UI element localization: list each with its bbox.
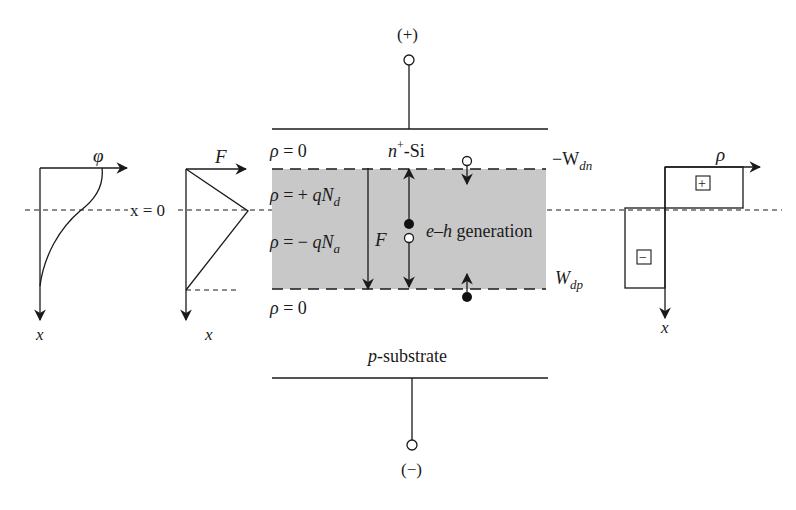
f-label: F [214, 146, 227, 167]
minus-sign: − [639, 250, 647, 265]
charge-density-plot: + − ρ x [625, 144, 760, 337]
eh-generation-label: e–h generation [426, 221, 532, 241]
phi-curve [40, 168, 102, 286]
phi-label: φ [93, 145, 104, 166]
f-x-label: x [204, 325, 213, 344]
plus-sign: + [698, 176, 706, 191]
field-arrow-label: F [374, 229, 387, 250]
negative-terminal-label: (−) [401, 460, 422, 479]
rho-axis-label: ρ [715, 144, 725, 165]
rho-x-label: x [660, 318, 669, 337]
n-plus-si-label: n+-Si [388, 138, 425, 161]
negative-terminal [407, 440, 417, 450]
minority-hole-top [463, 157, 472, 166]
positive-terminal-label: (+) [397, 25, 418, 44]
rho-zero-bottom-label: ρ = 0 [269, 298, 307, 318]
generated-hole-dot [405, 234, 414, 243]
field-plot: F x [186, 146, 248, 344]
w-dn-label: −Wdn [552, 149, 592, 173]
positive-terminal [404, 55, 414, 65]
origin-label: x = 0 [130, 201, 165, 220]
potential-plot: φ x [35, 145, 127, 344]
rho-zero-top-label: ρ = 0 [269, 141, 307, 161]
w-dp-label: Wdp [555, 268, 584, 292]
phi-x-label: x [35, 325, 44, 344]
photodiode-diagram: φ x x = 0 F x (+) n+-Si ρ = 0 ρ = + qNd [0, 0, 796, 510]
device-cross-section: (+) n+-Si ρ = 0 ρ = + qNd ρ = − qNa ρ = … [269, 25, 592, 479]
field-triangle [186, 169, 248, 290]
minority-electron-bottom [462, 292, 472, 302]
p-substrate-label: p-substrate [366, 346, 447, 366]
generated-electron-dot [404, 219, 414, 229]
negative-charge-block [625, 208, 665, 288]
